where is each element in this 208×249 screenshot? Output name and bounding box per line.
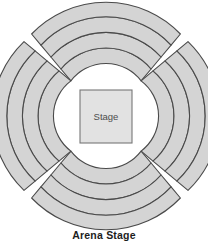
stage-label: Stage — [94, 111, 119, 122]
arena-stage-diagram: Stage Arena Stage — [0, 0, 208, 249]
diagram-caption: Arena Stage — [0, 229, 208, 241]
arena-seating-svg: Stage — [0, 0, 208, 249]
